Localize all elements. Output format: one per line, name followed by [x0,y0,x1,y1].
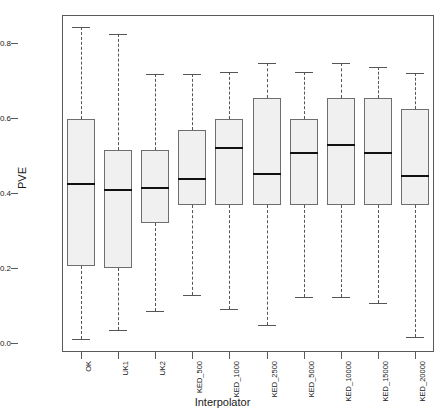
whisker-lower [155,223,156,311]
whisker-cap-lower [369,303,387,304]
box [327,98,355,205]
whisker-cap-upper [295,72,313,73]
median-line [290,152,318,154]
whisker-cap-upper [146,74,164,75]
whisker-cap-upper [220,72,238,73]
box [67,119,95,266]
whisker-upper [155,74,156,150]
whisker-upper [304,72,305,119]
median-line [141,187,169,189]
whisker-lower [81,266,82,339]
whisker-lower [229,205,230,309]
x-tick-label: KED_1000 [232,361,241,397]
whisker-cap-upper [72,27,90,28]
whisker-lower [415,205,416,337]
whisker-cap-lower [406,337,424,338]
x-tick-label: UK2 [158,361,167,376]
whisker-upper [81,27,82,119]
x-tick-mark [341,352,342,359]
whisker-cap-upper [183,74,201,75]
box [104,150,132,268]
median-line [253,173,281,175]
whisker-lower [267,205,268,325]
x-tick-mark [378,352,379,359]
whisker-upper [229,72,230,119]
median-line [327,144,355,146]
box [290,119,318,205]
whisker-upper [378,67,379,98]
whisker-upper [118,34,119,150]
x-tick-mark [304,352,305,359]
whisker-cap-upper [406,73,424,74]
median-line [104,189,132,191]
x-tick-label: UK1 [121,361,130,376]
whisker-lower [304,205,305,297]
whisker-upper [415,73,416,109]
median-line [67,183,95,185]
x-tick-label: OK [84,361,93,372]
median-line [401,175,429,177]
median-line [178,178,206,180]
whisker-cap-lower [72,339,90,340]
x-tick-mark [229,352,230,359]
x-axis-title: Interpolator [0,396,445,408]
whisker-cap-lower [220,309,238,310]
box [215,119,243,205]
x-tick-label: KED_2500 [270,361,279,397]
x-tick-mark [267,352,268,359]
box [178,130,206,205]
x-tick-mark [81,352,82,359]
whisker-cap-upper [369,67,387,68]
whisker-cap-lower [332,297,350,298]
whisker-lower [192,205,193,295]
whisker-lower [378,205,379,303]
x-tick-label: KED_5000 [307,361,316,397]
whisker-cap-lower [109,330,127,331]
whisker-cap-lower [146,311,164,312]
x-tick-mark [118,352,119,359]
x-tick-label: KED_500 [195,361,204,393]
x-tick-mark [415,352,416,359]
whisker-upper [267,63,268,98]
whisker-cap-lower [183,295,201,296]
median-line [215,147,243,149]
whisker-lower [341,205,342,297]
whisker-lower [118,268,119,330]
whisker-cap-lower [295,297,313,298]
x-tick-mark [155,352,156,359]
whisker-cap-lower [258,325,276,326]
whisker-cap-upper [258,63,276,64]
boxplot-figure: 0.00.20.40.60.8 PVE OKUK1UK2KED_500KED_1… [0,0,445,413]
x-tick-mark [192,352,193,359]
box [401,109,429,205]
whisker-upper [341,63,342,98]
box [253,98,281,205]
whisker-cap-upper [109,34,127,35]
median-line [364,152,392,154]
whisker-upper [192,74,193,130]
whisker-cap-upper [332,63,350,64]
